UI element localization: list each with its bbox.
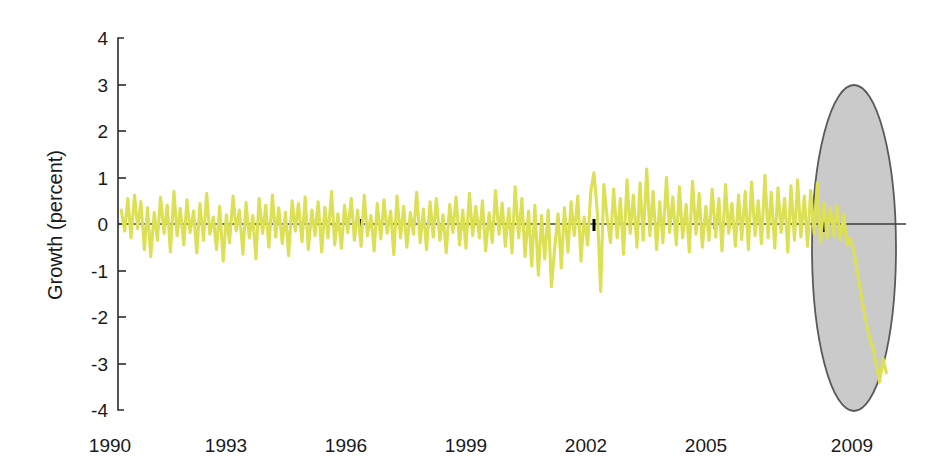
x-tick-label: 2005 [685, 435, 727, 456]
x-tick-label: 2009 [831, 435, 873, 456]
y-tick-label: -2 [91, 307, 108, 328]
chart-canvas: Growth (percent) 4 3 2 1 0 -1 -2 -3 -4 [0, 0, 939, 470]
x-tick-label: 1993 [205, 435, 247, 456]
x-tick-label: 1990 [89, 435, 131, 456]
y-tick-label: -1 [91, 261, 108, 282]
y-tick-label: 0 [97, 214, 108, 235]
y-axis-title: Growth (percent) [44, 150, 66, 300]
y-tick-label: 2 [97, 121, 108, 142]
y-axis-tick-labels: 4 3 2 1 0 -1 -2 -3 -4 [91, 28, 108, 421]
growth-chart: Growth (percent) 4 3 2 1 0 -1 -2 -3 -4 [0, 0, 939, 470]
y-tick-label: 3 [97, 75, 108, 96]
x-tick-label: 1999 [445, 435, 487, 456]
x-tick-label: 2002 [565, 435, 607, 456]
y-tick-label: 1 [97, 168, 108, 189]
y-tick-label: 4 [97, 28, 108, 49]
y-tick-label: -3 [91, 354, 108, 375]
x-axis-tick-labels: 1990 1993 1996 1999 2002 2005 2009 [89, 435, 873, 456]
growth-series-line [121, 169, 886, 382]
y-tick-label: -4 [91, 400, 108, 421]
x-tick-label: 1996 [325, 435, 367, 456]
